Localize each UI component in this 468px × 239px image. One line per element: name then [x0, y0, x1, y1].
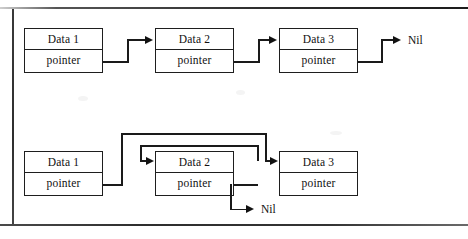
link-1-to-2-segment-h [103, 61, 129, 63]
link-3-to-2-segment-h-top [140, 145, 258, 147]
node-data-3: Data 3 pointer [279, 151, 358, 196]
link-1-to-2-segment-h2 [127, 39, 145, 41]
scan-speckle [236, 90, 245, 95]
link-2-to-3-segment-h [234, 61, 260, 63]
node-data-label: Data 3 [280, 29, 357, 50]
node-data-2: Data 2 pointer [155, 151, 234, 196]
node-pointer-label: pointer [156, 50, 233, 71]
link-3-to-nil-segment-v [381, 39, 383, 62]
node-data-2: Data 2 pointer [155, 28, 234, 73]
link-1-to-3-segment-v-up [121, 133, 123, 185]
node-data-label: Data 2 [156, 152, 233, 173]
link-2-to-nil-segment-h [234, 184, 258, 186]
node-pointer-label: pointer [156, 173, 233, 194]
link-1-to-3-segment-h [103, 184, 123, 186]
scan-speckle [78, 96, 88, 101]
link-1-to-2-arrowhead [145, 36, 153, 44]
figure-canvas: Data 1 pointer Data 2 pointer Data 3 poi… [0, 0, 468, 239]
node-pointer-label: pointer [25, 50, 102, 71]
page-rule-bottom [0, 224, 468, 226]
link-1-to-3-segment-v-down [265, 133, 267, 161]
node-data-3: Data 3 pointer [279, 28, 358, 73]
node-data-1: Data 1 pointer [24, 28, 103, 73]
node-pointer-label: pointer [280, 50, 357, 71]
node-data-label: Data 1 [25, 152, 102, 173]
node-data-label: Data 2 [156, 29, 233, 50]
nil-label-top: Nil [408, 34, 423, 46]
link-2-to-nil-arrowhead [246, 205, 254, 213]
node-pointer-label: pointer [25, 173, 102, 194]
node-pointer-label: pointer [280, 173, 357, 194]
node-data-label: Data 3 [280, 152, 357, 173]
link-1-to-2-segment-v [127, 39, 129, 62]
scan-speckle [330, 131, 342, 135]
link-1-to-3-segment-h-top [121, 133, 267, 135]
node-data-label: Data 1 [25, 29, 102, 50]
link-1-to-3-arrowhead [270, 157, 278, 165]
node-data-1: Data 1 pointer [24, 151, 103, 196]
page-rule-top [0, 7, 468, 9]
page-rule-left [12, 9, 14, 225]
link-3-to-2-segment-v-left [140, 145, 142, 161]
link-3-to-2-segment-v-right [257, 145, 259, 161]
link-3-to-nil-segment-h [358, 61, 383, 63]
link-2-to-nil-segment-v [230, 184, 232, 210]
link-3-to-2-arrowhead [146, 157, 154, 165]
link-2-to-3-segment-v [258, 39, 260, 62]
link-2-to-3-arrowhead [269, 36, 277, 44]
link-3-to-nil-arrowhead [393, 36, 401, 44]
nil-label-bottom: Nil [261, 203, 276, 215]
